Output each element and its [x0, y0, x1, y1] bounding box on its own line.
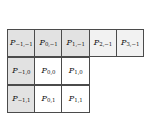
grid-row: P−1,0P0,0P1,0: [7, 57, 151, 85]
cell-label: P0,0: [42, 66, 56, 76]
cell-label: P1,0: [69, 66, 83, 76]
cell-label-subscript: 2,−1: [99, 41, 112, 47]
cell-label-subscript: 1,0: [74, 69, 82, 75]
cell-label-subscript: 1,1: [74, 97, 82, 103]
cell-label-subscript: 0,1: [47, 97, 55, 103]
grid-cell: P1,0: [61, 57, 90, 85]
grid-cell: P0,0: [34, 57, 63, 85]
cell-label: P−1,−1: [10, 38, 33, 48]
cell-label: P1,1: [69, 94, 83, 104]
grid-cell: P2,−1: [89, 29, 118, 57]
grid-cell-empty: [117, 85, 146, 113]
grid-cell: P3,−1: [116, 29, 145, 57]
cell-label-subscript: 0,−1: [45, 41, 58, 47]
cell-label-subscript: 1,−1: [72, 41, 85, 47]
grid-cell: P1,1: [61, 85, 90, 113]
cell-label: P0,1: [42, 94, 56, 104]
grid-cell-empty: [89, 85, 118, 113]
cell-label: P0,−1: [39, 38, 57, 48]
grid-cell: P1,−1: [61, 29, 90, 57]
grid-cell: P0,−1: [34, 29, 63, 57]
grid-row: P−1,−1P0,−1P1,−1P2,−1P3,−1: [7, 29, 151, 57]
grid-cell: P−1,0: [7, 57, 36, 85]
grid-row: P−1,1P0,1P1,1: [7, 85, 151, 113]
cell-label: P−1,0: [12, 66, 30, 76]
grid-cell-empty: [89, 57, 118, 85]
grid-cell: P−1,1: [7, 85, 36, 113]
cell-label: P3,−1: [121, 38, 139, 48]
grid-cell: P0,1: [34, 85, 63, 113]
cell-label: P−1,1: [12, 94, 30, 104]
cell-label-subscript: −1,−1: [16, 41, 33, 47]
pixel-grid: P−1,−1P0,−1P1,−1P2,−1P3,−1P−1,0P0,0P1,0P…: [7, 29, 151, 113]
cell-label-subscript: −1,0: [18, 69, 31, 75]
cell-label-subscript: 3,−1: [127, 41, 140, 47]
cell-label: P2,−1: [94, 38, 112, 48]
cell-label-subscript: 0,0: [47, 69, 55, 75]
pixel-grid-figure: P−1,−1P0,−1P1,−1P2,−1P3,−1P−1,0P0,0P1,0P…: [0, 0, 162, 128]
cell-label-subscript: −1,1: [18, 97, 31, 103]
grid-cell-empty: [117, 57, 146, 85]
grid-cell: P−1,−1: [7, 29, 36, 57]
cell-label: P1,−1: [67, 38, 85, 48]
